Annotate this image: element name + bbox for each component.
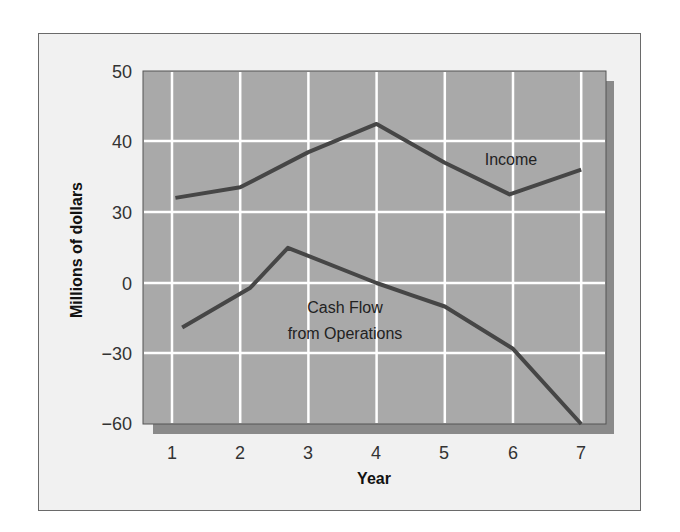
x-tick-2: 2 [235, 443, 245, 463]
x-axis-title: Year [357, 470, 391, 487]
x-tick-3: 3 [303, 443, 313, 463]
x-tick-4: 4 [371, 443, 381, 463]
y-tick-30: 30 [112, 203, 132, 223]
y-tick-neg30: −30 [101, 344, 132, 364]
x-tick-6: 6 [508, 443, 518, 463]
x-tick-7: 7 [576, 443, 586, 463]
y-tick-neg60: −60 [101, 414, 132, 434]
cashflow-label-line2: from Operations [288, 325, 403, 342]
cashflow-label-line1: Cash Flow [307, 299, 383, 316]
y-tick-0: 0 [122, 274, 132, 294]
y-axis-title: Millions of dollars [68, 182, 85, 318]
y-tick-50: 50 [112, 62, 132, 82]
income-label: Income [485, 151, 538, 168]
x-tick-5: 5 [439, 443, 449, 463]
line-chart: 50 40 30 0 −30 −60 1 2 3 4 5 6 7 Year Mi… [0, 0, 680, 532]
y-tick-40: 40 [112, 132, 132, 152]
x-tick-1: 1 [167, 443, 177, 463]
